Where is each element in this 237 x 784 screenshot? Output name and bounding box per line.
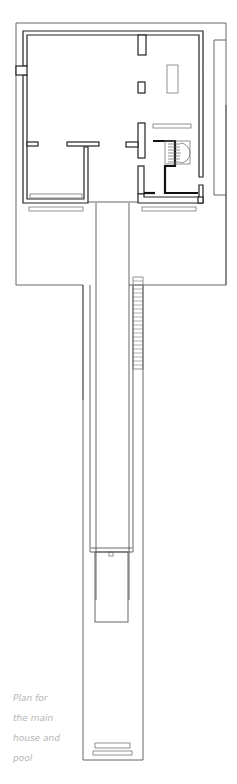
house-walls	[16, 31, 203, 203]
caption-line-3: house and	[13, 728, 73, 748]
terrace-outline	[16, 23, 226, 400]
exterior-steps	[133, 277, 143, 369]
stair	[165, 141, 190, 164]
side-element	[214, 40, 226, 195]
floor-plan-drawing	[0, 0, 237, 784]
plan-caption: Plan for the main house and pool	[13, 688, 73, 768]
pool-walk	[83, 285, 143, 760]
pool-steps	[93, 743, 132, 755]
caption-line-1: Plan for	[13, 688, 73, 708]
caption-line-2: the main	[13, 708, 73, 728]
caption-line-4: pool	[13, 748, 73, 768]
breezeway	[88, 202, 138, 600]
